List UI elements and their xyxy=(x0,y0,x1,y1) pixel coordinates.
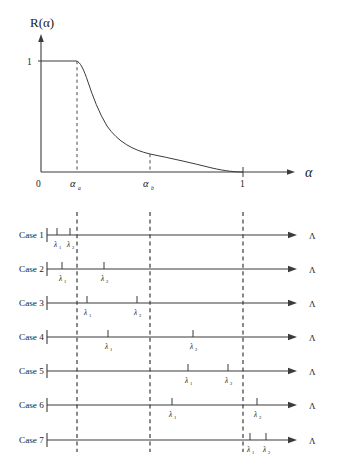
case-2-lambda2-label: λ xyxy=(100,274,105,283)
case-4-lambda1-label: λ xyxy=(104,342,109,351)
case-2-axis-label: Λ xyxy=(309,265,316,275)
top-chart: R(α) 1 0 α a α b 1 α xyxy=(27,15,313,191)
case-2-lambda2-subscript: 2 xyxy=(106,279,109,284)
case-6-lambda2-label: λ xyxy=(253,410,258,419)
case-3-lambda2-subscript: 2 xyxy=(139,313,142,318)
case-3-lambda1-subscript: 1 xyxy=(89,313,92,318)
x-tick-label-alpha-a-subscript: a xyxy=(78,185,81,191)
case-4-arrowhead xyxy=(288,334,297,340)
case-5-axis-label: Λ xyxy=(309,367,316,377)
case-5-lambda2-subscript: 2 xyxy=(230,381,233,386)
figure-svg: R(α) 1 0 α a α b 1 α Case 1 xyxy=(0,0,341,463)
case-4-lambda2-subscript: 2 xyxy=(195,347,198,352)
case-7-lambda2-subscript: 2 xyxy=(268,450,271,455)
case-7-axis-label: Λ xyxy=(309,436,316,446)
case-7-lambda2-label: λ xyxy=(262,445,267,454)
case-4-label: Case 4 xyxy=(19,332,44,342)
case-1-lambda2-subscript: 2 xyxy=(72,245,75,250)
case-row: Case 1 λ 1 λ 2 Λ xyxy=(19,228,316,250)
x-axis-title: α xyxy=(305,165,313,180)
case-1-lambda1-subscript: 1 xyxy=(59,245,62,250)
case-6-lambda2-subscript: 2 xyxy=(259,415,262,420)
case-5-lambda1-subscript: 1 xyxy=(190,381,193,386)
case-row: Case 2 λ 1 λ 2 Λ xyxy=(19,262,316,284)
case-1-lambda1-label: λ xyxy=(53,240,58,249)
y-axis-title: R(α) xyxy=(30,15,54,30)
case-3-axis-label: Λ xyxy=(309,299,316,309)
case-1-lambda2-label: λ xyxy=(66,240,71,249)
case-1-axis-label: Λ xyxy=(309,231,316,241)
case-6-lambda1-subscript: 1 xyxy=(174,415,177,420)
x-axis-arrowhead xyxy=(287,169,295,175)
case-3-arrowhead xyxy=(288,300,297,306)
case-4-lambda1-subscript: 1 xyxy=(110,347,113,352)
case-7-lambda1-subscript: 1 xyxy=(252,450,255,455)
case-5-label: Case 5 xyxy=(19,366,44,376)
y-axis-arrowhead xyxy=(38,34,44,42)
case-2-label: Case 2 xyxy=(19,264,44,274)
case-2-arrowhead xyxy=(288,266,297,272)
case-1-label: Case 1 xyxy=(19,230,44,240)
case-diagram: Case 1 λ 1 λ 2 Λ Case 2 λ 1 λ 2 Λ xyxy=(19,212,316,455)
case-row: Case 4 λ 1 λ 2 Λ xyxy=(19,330,316,352)
x-tick-label-zero: 0 xyxy=(36,179,41,189)
case-4-axis-label: Λ xyxy=(309,333,316,343)
reliability-curve xyxy=(41,61,243,172)
case-row: Case 3 λ 1 λ 2 Λ xyxy=(19,296,316,318)
case-7-label: Case 7 xyxy=(19,435,44,445)
case-3-lambda1-label: λ xyxy=(83,308,88,317)
x-tick-label-one: 1 xyxy=(240,179,245,189)
case-6-lambda1-label: λ xyxy=(168,410,173,419)
case-5-lambda1-label: λ xyxy=(184,376,189,385)
case-6-label: Case 6 xyxy=(19,400,44,410)
case-row: Case 6 λ 1 λ 2 Λ xyxy=(19,398,316,420)
x-tick-label-alpha-b-subscript: b xyxy=(151,185,154,191)
case-5-arrowhead xyxy=(288,368,297,374)
case-3-label: Case 3 xyxy=(19,298,44,308)
case-7-arrowhead xyxy=(288,437,297,443)
figure-container: R(α) 1 0 α a α b 1 α Case 1 xyxy=(0,0,341,463)
case-row: Case 5 λ 1 λ 2 Λ xyxy=(19,364,316,386)
case-5-lambda2-label: λ xyxy=(224,376,229,385)
case-3-lambda2-label: λ xyxy=(133,308,138,317)
x-tick-label-alpha-a: α xyxy=(70,178,76,189)
case-1-arrowhead xyxy=(288,232,297,238)
case-2-lambda1-label: λ xyxy=(58,274,63,283)
case-2-lambda1-subscript: 1 xyxy=(64,279,67,284)
case-row: Case 7 λ 1 λ 2 Λ xyxy=(19,433,316,455)
case-4-lambda2-label: λ xyxy=(189,342,194,351)
case-7-lambda1-label: λ xyxy=(246,445,251,454)
case-6-arrowhead xyxy=(288,402,297,408)
x-tick-label-alpha-b: α xyxy=(143,178,149,189)
y-tick-label-one: 1 xyxy=(27,57,32,67)
case-6-axis-label: Λ xyxy=(309,401,316,411)
